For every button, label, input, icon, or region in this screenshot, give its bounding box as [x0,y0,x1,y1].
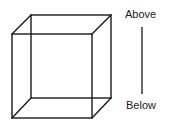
cube-edge-top-left [12,15,31,34]
cube-edge-bottom-right [92,98,111,118]
cube-edge-bottom-left [12,98,31,118]
below-label: Below [126,100,156,111]
cube-edge-top-right [92,15,111,34]
above-label: Above [125,9,156,20]
necker-cube-diagram: Above Below [0,0,169,128]
